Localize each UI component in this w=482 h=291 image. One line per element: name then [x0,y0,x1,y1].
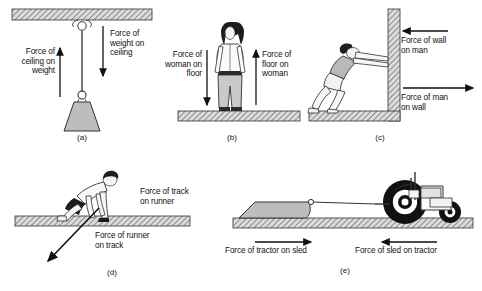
label-force-track-on-runner: Force of track on runner [140,187,218,206]
panel-label-a: (a) [65,133,99,142]
wall-hatched-band [388,9,400,121]
panel-d-drawing [0,160,215,270]
panel-a: Force of ceiling on weight Force of weig… [0,0,175,155]
tow-line [311,202,375,204]
hanging-weight [64,102,100,131]
label-force-tractor-on-sled: Force of tractor on sled [225,246,345,256]
runner-figure [57,171,118,222]
label-force-woman-on-floor: Force of woman on floor [152,50,202,79]
panel-c-drawing [295,0,482,140]
panel-e-drawing [225,160,482,275]
label-force-runner-on-track: Force of runner on track [95,231,190,250]
label-force-man-on-wall: Force of man on wall [401,93,481,112]
tractor-figure [375,172,461,224]
panel-label-b: (b) [215,133,249,142]
panel-d: Force of track on runner Force of runner… [0,160,215,291]
weight-ring [78,91,86,99]
woman-figure [215,22,245,111]
panel-c: Force of wall on man Force of man on wal… [295,0,482,155]
label-force-sled-on-tractor: Force of sled on tractor [355,246,480,256]
ground-hatched-band [309,111,400,121]
man-pushing-figure [308,44,388,113]
floor-hatched-band [178,111,300,121]
sled-shape [239,202,310,218]
label-force-ceiling-on-weight: Force of ceiling on weight [0,47,55,76]
ceiling-hatched-band [12,9,152,20]
panel-label-d: (d) [95,268,129,277]
panel-e: Force of tractor on sled Force of sled o… [225,160,482,291]
panel-label-c: (c) [363,133,397,142]
panel-label-e: (e) [328,266,362,275]
ground-hatched-band-e [233,218,473,228]
panel-b: Force of woman on floor Force of floor o… [160,0,305,155]
label-force-wall-on-man: Force of wall on man [401,36,481,55]
ceiling-hook-icon [73,20,92,27]
